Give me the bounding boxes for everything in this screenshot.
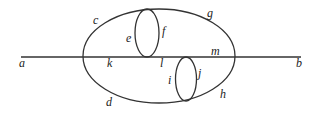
diagram-svg: a b c d e f g h i j k l m [0,0,317,116]
lower-small-ellipse [176,57,197,101]
label-m: m [211,44,220,58]
label-a: a [19,56,25,70]
label-l: l [160,56,164,70]
label-i: i [168,73,171,87]
label-h: h [220,87,226,101]
diagram-canvas: a b c d e f g h i j k l m [0,0,317,116]
label-f: f [162,24,167,38]
label-e: e [126,31,132,45]
label-b: b [296,56,302,70]
upper-small-ellipse [135,9,159,57]
label-d: d [106,95,113,109]
label-g: g [207,6,213,20]
label-c: c [93,13,99,27]
label-k: k [107,56,113,70]
